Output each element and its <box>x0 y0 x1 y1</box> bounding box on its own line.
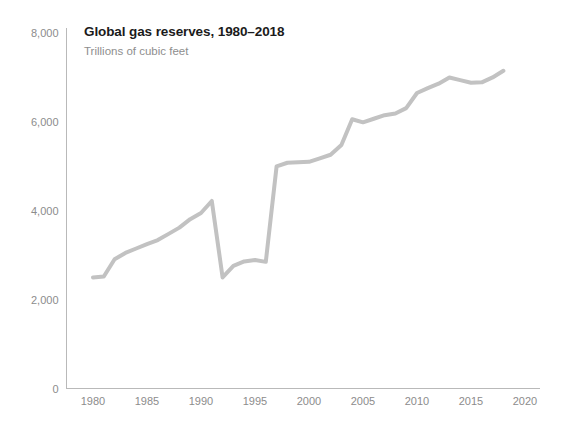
x-tick-label: 2015 <box>459 395 483 407</box>
data-series-group <box>93 71 503 278</box>
y-tick-label: 0 <box>52 383 58 395</box>
chart-figure: Global gas reserves, 1980–2018 Trillions… <box>0 0 563 431</box>
x-axis: 198019851990199520002005201020152020 <box>67 389 541 407</box>
x-tick-label: 2020 <box>513 395 537 407</box>
x-tick-label: 1995 <box>243 395 267 407</box>
x-tick-label: 2010 <box>405 395 429 407</box>
x-tick-label: 1980 <box>81 395 105 407</box>
y-tick-label: 4,000 <box>31 205 59 217</box>
x-tick-label: 1990 <box>189 395 213 407</box>
x-tick-label: 1985 <box>135 395 159 407</box>
x-tick-label: 2000 <box>297 395 321 407</box>
data-line <box>93 71 503 278</box>
y-axis: 02,0004,0006,0008,000 <box>31 27 67 395</box>
y-tick-label: 2,000 <box>31 294 59 306</box>
x-tick-label: 2005 <box>351 395 375 407</box>
line-chart-plot: 02,0004,0006,0008,000 198019851990199520… <box>0 0 563 431</box>
y-tick-label: 8,000 <box>31 27 59 39</box>
y-tick-label: 6,000 <box>31 116 59 128</box>
